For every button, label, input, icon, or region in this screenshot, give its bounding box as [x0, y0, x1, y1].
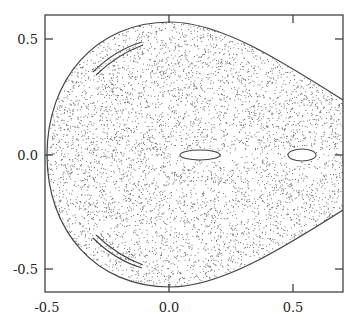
y-tick-label: 0.5	[17, 32, 38, 47]
x-tick-label: 0.5	[283, 300, 304, 315]
y-axis-labels: 0.5 0.0 -0.5	[13, 32, 38, 277]
island-left	[180, 150, 220, 160]
poincare-plot: -0.5 0.0 0.5 0.5 0.0 -0.5	[0, 0, 362, 329]
x-tick-label: -0.5	[34, 300, 59, 315]
y-tick-label: -0.5	[13, 262, 38, 277]
island-right	[288, 149, 316, 161]
x-tick-label: 0.0	[159, 300, 180, 315]
x-axis-labels: -0.5 0.0 0.5	[34, 300, 303, 315]
regular-islands	[93, 42, 316, 268]
y-tick-label: 0.0	[17, 148, 38, 163]
